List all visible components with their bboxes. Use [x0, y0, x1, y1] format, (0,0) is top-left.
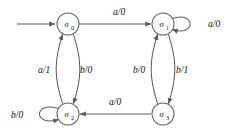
edge-label-s2-s0: a/1 [38, 65, 50, 75]
node-s0[interactable]: σ 0 [57, 13, 79, 35]
edge-label-s2-self: b/0 [11, 110, 23, 120]
node-s2[interactable]: σ 2 [57, 103, 79, 125]
state-subscript-s2: 2 [71, 114, 74, 121]
edge-s2-self [39, 107, 58, 121]
node-s3[interactable]: σ 3 [152, 103, 174, 125]
state-subscript-s0: 0 [71, 24, 74, 31]
state-subscript-s1: 1 [166, 24, 169, 31]
edge-s3-s1 [151, 34, 157, 103]
edge-label-s3-s1: b/0 [133, 65, 145, 75]
edge-label-s1-self: a/0 [208, 19, 220, 29]
edge-s2-s0 [56, 34, 62, 103]
state-machine-diagram: σ 0 σ 1 σ 2 σ 3 a/0 a/0 b/0 a/1 b/1 b/0 … [0, 0, 232, 138]
node-s1[interactable]: σ 1 [152, 13, 174, 35]
edge-label-s3-s2: a/0 [109, 97, 121, 107]
edge-s1-s3 [168, 34, 174, 103]
state-subscript-s3: 3 [166, 114, 169, 121]
edge-label-s0-s1: a/0 [113, 7, 125, 17]
edge-s0-s2 [73, 34, 79, 103]
edge-label-s1-s3: b/1 [176, 65, 188, 75]
edge-label-s0-s2: b/0 [80, 65, 92, 75]
edge-s1-self [172, 17, 190, 31]
